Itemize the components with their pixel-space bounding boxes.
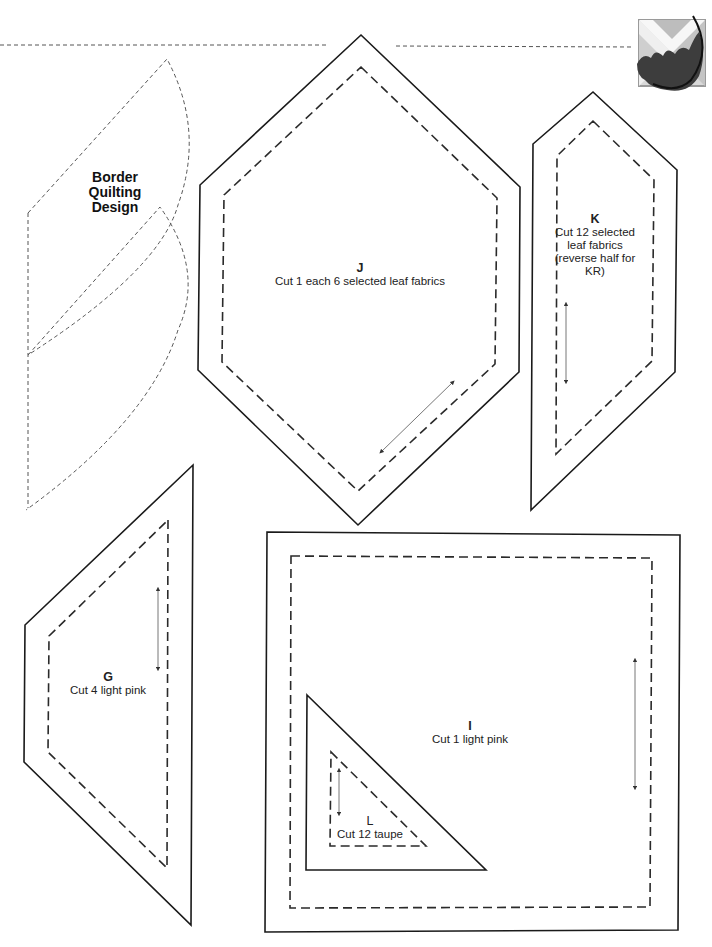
piece-k-letter: K <box>550 213 640 226</box>
piece-g-instruction: Cut 4 light pink <box>70 684 146 696</box>
piece-j-grain-arrow <box>381 382 453 452</box>
piece-k <box>531 92 677 510</box>
piece-k-instruction-line-3: (reverse half for <box>555 252 636 264</box>
piece-l-letter: L <box>329 815 411 828</box>
top-fold-line-right <box>396 46 632 47</box>
piece-j-letter: J <box>260 262 460 275</box>
piece-j-label: J Cut 1 each 6 selected leaf fabrics <box>260 262 460 288</box>
border-quilting-design <box>26 59 189 510</box>
border-title-line-3: Design <box>92 199 139 215</box>
border-title-line-1: Border <box>92 169 138 185</box>
piece-k-cut-line <box>531 92 677 510</box>
piece-k-seam-line <box>556 121 654 454</box>
piece-i-letter: I <box>420 720 520 733</box>
leaf-quilt-block-logo-icon <box>633 14 709 100</box>
piece-k-label: K Cut 12 selected leaf fabrics (reverse … <box>550 213 640 278</box>
piece-i-label: I Cut 1 light pink <box>420 720 520 746</box>
piece-k-instruction-line-4: KR) <box>585 265 605 277</box>
piece-i-instruction: Cut 1 light pink <box>432 733 508 745</box>
border-title-line-2: Quilting <box>89 184 142 200</box>
piece-l-label: L Cut 12 taupe <box>329 815 411 841</box>
piece-k-instruction-line-1: Cut 12 selected <box>555 226 635 238</box>
piece-g-letter: G <box>58 671 158 684</box>
piece-j-instruction: Cut 1 each 6 selected leaf fabrics <box>275 275 445 287</box>
piece-g-label: G Cut 4 light pink <box>58 671 158 697</box>
template-canvas <box>0 0 712 947</box>
piece-k-instruction-line-2: leaf fabrics <box>567 239 623 251</box>
border-quilting-design-title: Border Quilting Design <box>80 170 150 215</box>
piece-l-instruction: Cut 12 taupe <box>337 828 403 840</box>
